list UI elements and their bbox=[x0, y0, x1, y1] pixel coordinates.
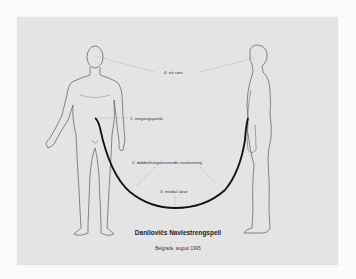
side-figure bbox=[244, 45, 271, 233]
diagram-title: Danilovičs Navlestrengspeil bbox=[0, 229, 356, 236]
diagram-subtitle: Belgrade, august 1995 bbox=[0, 246, 356, 251]
front-figure bbox=[46, 46, 125, 235]
label-entry-point: 1. inngangspunkt bbox=[130, 116, 163, 121]
label-medial-axis: 3. medial akse bbox=[160, 189, 188, 194]
title-separator: - - - - bbox=[0, 239, 356, 244]
diagram-art bbox=[0, 0, 356, 279]
label-sense: 4. ett sinn bbox=[164, 70, 183, 75]
label-cord: 2. dobbeltsingaliserende navlestreng bbox=[132, 160, 202, 165]
